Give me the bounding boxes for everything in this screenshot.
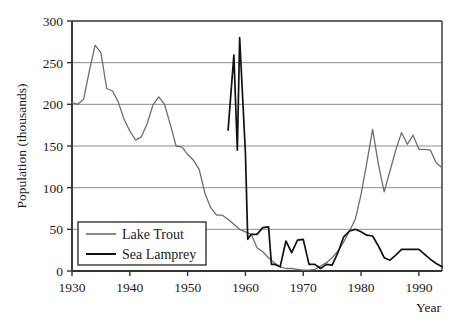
y-tick-label: 250 xyxy=(43,56,64,71)
legend-label-sea-lamprey: Sea Lamprey xyxy=(122,247,196,262)
chart-background xyxy=(0,0,457,327)
chart-legend[interactable]: Lake Trout Sea Lamprey xyxy=(78,222,206,265)
chart-figure: 050100150200250300 193019401950196019701… xyxy=(0,0,457,327)
x-tick-label: 1950 xyxy=(174,280,201,295)
y-tick-label: 150 xyxy=(43,139,64,154)
x-tick-label: 1930 xyxy=(59,280,86,295)
x-tick-label: 1940 xyxy=(116,280,143,295)
y-tick-label: 300 xyxy=(43,14,64,29)
population-line-chart: 050100150200250300 193019401950196019701… xyxy=(0,0,457,327)
x-tick-label: 1970 xyxy=(290,280,317,295)
x-axis-title: Year xyxy=(416,300,441,315)
y-tick-label: 0 xyxy=(56,264,63,279)
x-tick-label: 1980 xyxy=(348,280,375,295)
legend-label-lake-trout: Lake Trout xyxy=(122,227,184,242)
y-axis-title: Population (thousands) xyxy=(14,84,29,209)
x-tick-label: 1960 xyxy=(232,280,259,295)
y-tick-label: 200 xyxy=(43,97,64,112)
y-tick-label: 100 xyxy=(43,181,64,196)
x-tick-label: 1990 xyxy=(405,280,432,295)
y-tick-label: 50 xyxy=(50,222,64,237)
